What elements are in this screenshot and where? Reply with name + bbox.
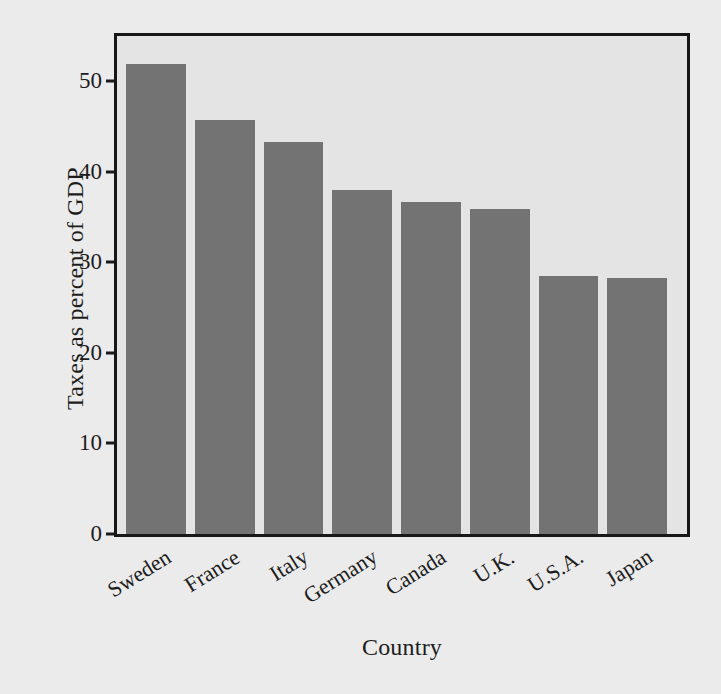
y-tick-label: 10 [40,430,102,456]
bar [332,190,392,534]
bar [195,120,255,534]
y-tick-label: 40 [40,159,102,185]
x-tick-label: Japan [601,544,657,593]
bar [126,64,186,534]
bar [539,276,599,534]
bar [607,278,667,534]
x-tick-label: France [180,544,245,598]
y-axis-tick-labels: 01020304050 [40,0,102,694]
bar [264,142,324,534]
y-tick-label: 50 [40,68,102,94]
bar [470,209,530,534]
x-tick-label: Italy [265,544,313,587]
x-tick-label: U.S.A. [523,544,588,598]
x-axis-title: Country [114,634,690,661]
y-tick-label: 20 [40,340,102,366]
x-tick-label: U.K. [469,544,519,589]
x-axis-tick-labels: SwedenFranceItalyGermanyCanadaU.K.U.S.A.… [114,540,690,630]
x-tick-label: Canada [381,544,451,601]
bar [401,202,461,534]
y-tick-label: 0 [40,521,102,547]
y-tick-label: 30 [40,249,102,275]
bars-container [117,36,687,534]
x-tick-label: Germany [299,544,382,609]
plot-area [114,33,690,537]
x-tick-label: Sweden [103,544,176,603]
figure: Taxes as percent of GDP 01020304050 Swed… [0,0,721,694]
